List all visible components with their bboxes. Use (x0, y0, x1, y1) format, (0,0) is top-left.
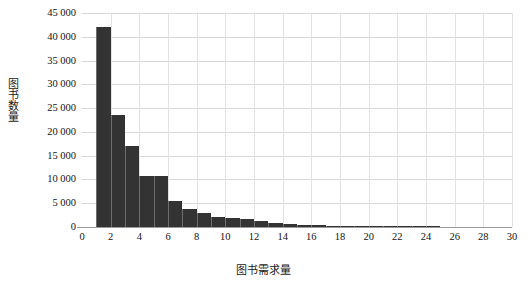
x-axis-tick-label: 22 (382, 231, 412, 242)
y-axis-title: 图书数量 (2, 78, 18, 122)
y-axis-tick-label: 10 000 (20, 174, 76, 184)
bar (240, 219, 254, 227)
y-axis-tick-label: 15 000 (20, 151, 76, 161)
x-axis-tick-label: 16 (296, 231, 326, 242)
bar (225, 218, 239, 227)
x-axis-tick-label: 14 (268, 231, 298, 242)
x-axis-tick-label: 2 (96, 231, 126, 242)
bar (111, 115, 125, 227)
x-axis-tick-label: 8 (182, 231, 212, 242)
y-axis-tick-label: 40 000 (20, 32, 76, 42)
bar (168, 201, 182, 227)
bar (197, 213, 211, 227)
y-axis-tick-label: 25 000 (20, 103, 76, 113)
bar (139, 176, 153, 227)
x-axis-tick-label: 12 (239, 231, 269, 242)
y-axis-tick-label: 30 000 (20, 79, 76, 89)
x-axis-tick-label: 30 (497, 231, 527, 242)
bar (125, 146, 139, 227)
y-axis-tick-label: 20 000 (20, 127, 76, 137)
x-axis-tick-label: 26 (440, 231, 470, 242)
y-axis-tick-label: 35 000 (20, 56, 76, 66)
x-axis-line (77, 227, 512, 228)
x-axis-tick-label: 28 (468, 231, 498, 242)
x-axis-tick-label: 6 (153, 231, 183, 242)
plot-area (82, 13, 512, 227)
x-axis-tick-label: 24 (411, 231, 441, 242)
x-axis-tick-label: 18 (325, 231, 355, 242)
y-axis-tick-label: 45 000 (20, 8, 76, 18)
x-axis-tick-label: 0 (67, 231, 97, 242)
x-axis-tick-label: 10 (210, 231, 240, 242)
histogram-chart: 图书数量 05 00010 00015 00020 00025 00030 00… (0, 0, 527, 284)
gridline-vertical (512, 13, 513, 227)
bar (154, 176, 168, 227)
bar-series (82, 13, 512, 227)
bar (182, 209, 196, 227)
bar (96, 27, 110, 227)
bar (211, 217, 225, 227)
x-axis-tick-label: 20 (354, 231, 384, 242)
y-axis-tick-label: 5 000 (20, 198, 76, 208)
x-axis-title: 图书需求量 (0, 261, 527, 277)
x-axis-tick-label: 4 (124, 231, 154, 242)
x-axis-tick-labels: 024681012141618202224262830 (0, 231, 527, 247)
